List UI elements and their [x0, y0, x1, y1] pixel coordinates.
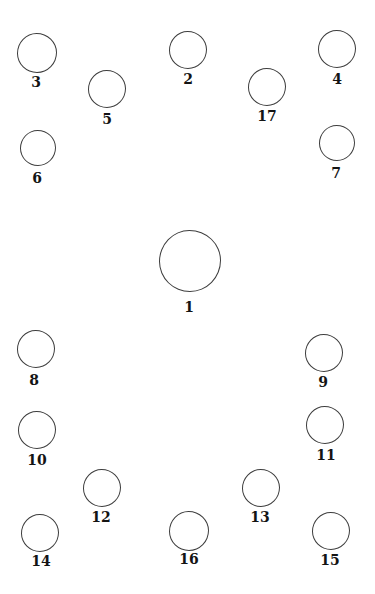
circle-9	[305, 334, 343, 372]
circle-13	[242, 469, 280, 507]
circle-10	[18, 411, 56, 449]
circle-6	[20, 130, 56, 166]
circle-label-4: 4	[317, 72, 357, 87]
circle-1	[159, 230, 221, 292]
circle-14	[21, 514, 59, 552]
circle-2	[169, 31, 207, 69]
circle-15	[312, 512, 350, 550]
circle-16	[169, 511, 209, 551]
circle-11	[306, 406, 344, 444]
circle-label-16: 16	[169, 552, 209, 567]
circle-label-14: 14	[21, 554, 61, 569]
circle-label-2: 2	[168, 72, 208, 87]
circle-4	[318, 30, 356, 68]
circle-label-15: 15	[310, 553, 350, 568]
circle-label-6: 6	[17, 171, 57, 186]
circle-label-13: 13	[240, 510, 280, 525]
circle-3	[17, 33, 57, 73]
diagram-canvas: 1234567891011121314151617	[0, 0, 375, 594]
circle-label-11: 11	[306, 448, 346, 463]
circle-label-10: 10	[17, 453, 57, 468]
circle-label-9: 9	[303, 375, 343, 390]
circle-label-7: 7	[316, 166, 356, 181]
circle-12	[83, 469, 121, 507]
circle-label-1: 1	[169, 300, 209, 315]
circle-5	[88, 70, 126, 108]
circle-7	[319, 125, 355, 161]
circle-8	[17, 330, 55, 368]
circle-17	[248, 68, 286, 106]
circle-label-5: 5	[87, 112, 127, 127]
circle-label-8: 8	[14, 373, 54, 388]
circle-label-3: 3	[16, 75, 56, 90]
circle-label-12: 12	[81, 510, 121, 525]
circle-label-17: 17	[247, 109, 287, 124]
